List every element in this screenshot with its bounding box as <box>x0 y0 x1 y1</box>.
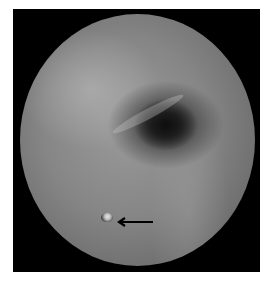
lesion <box>101 213 113 222</box>
arrow-left-icon <box>116 217 154 227</box>
endoscopic-view <box>20 14 255 266</box>
image-frame <box>13 9 260 272</box>
